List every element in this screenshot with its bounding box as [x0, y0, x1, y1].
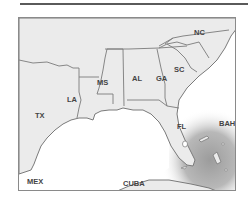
label-cuba: CUBA	[123, 179, 145, 188]
label-ga: GA	[156, 74, 168, 83]
label-bah: BAH	[219, 119, 235, 128]
label-tx: TX	[35, 111, 45, 120]
land-bahamas-4	[225, 169, 227, 171]
map-frame: MS AL GA SC NC LA TX FL BAH CUBA MEX	[18, 17, 236, 191]
land-bahamas-3	[222, 143, 224, 145]
label-la: LA	[67, 95, 78, 104]
label-mex: MEX	[27, 177, 43, 186]
label-nc: NC	[194, 28, 205, 37]
label-sc: SC	[174, 65, 185, 74]
map-svg: MS AL GA SC NC LA TX FL BAH CUBA MEX	[19, 18, 236, 191]
label-fl: FL	[177, 122, 187, 131]
label-al: AL	[132, 74, 142, 83]
lake-okeechobee	[183, 141, 188, 147]
top-rule	[20, 3, 248, 5]
label-ms: MS	[97, 78, 108, 87]
